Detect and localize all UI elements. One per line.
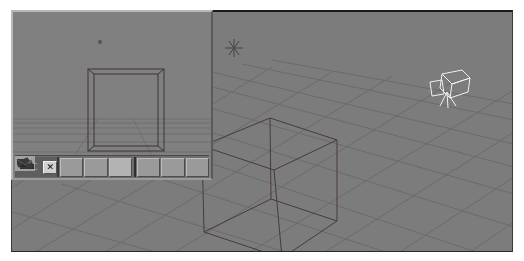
inset-cube-wireframe [88, 69, 164, 151]
dolly-icon [15, 156, 35, 171]
inset-toolbar: C ✕ [15, 155, 209, 178]
camera-icon[interactable] [430, 70, 470, 108]
render-shaded-button[interactable] [84, 158, 107, 177]
orbit-button[interactable] [161, 158, 184, 177]
inset-floor-grid [13, 119, 211, 158]
point-light-icon[interactable] [225, 39, 243, 57]
toolbar-separator [134, 157, 136, 177]
pan-button[interactable] [137, 158, 160, 177]
camera-view-button[interactable] [109, 158, 132, 177]
render-textured-button[interactable] [60, 158, 83, 177]
camera-scene [13, 12, 211, 158]
dolly-button[interactable] [186, 158, 209, 177]
close-button[interactable]: ✕ [43, 161, 57, 174]
inset-light-icon [98, 40, 102, 44]
camera-inset-viewport[interactable]: C ✕ [11, 10, 213, 180]
